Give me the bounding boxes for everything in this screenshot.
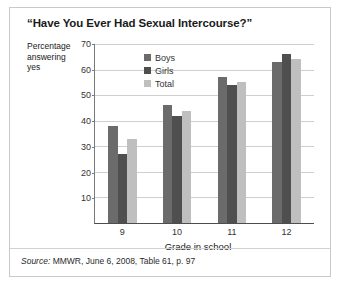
bar-boys-grade-12 (272, 62, 281, 223)
legend-item-boys: Boys (144, 52, 175, 63)
y-axis-tick-mark (92, 121, 95, 122)
chart-title: “Have You Ever Had Sexual Intercourse?” (27, 17, 252, 29)
y-axis-label-line-3: yes (27, 62, 83, 73)
x-axis-tick-label: 9 (95, 227, 150, 237)
source-note: Source: MMWR, June 6, 2008, Table 61, p.… (21, 256, 195, 266)
plot-area: 10203040506070 9101112 (94, 44, 314, 224)
y-axis-tick-label: 10 (81, 193, 91, 203)
y-axis-label: Percentage answering yes (27, 41, 83, 73)
bar-boys-grade-9 (108, 126, 117, 223)
source-text: MMWR, June 6, 2008, Table 61, p. 97 (50, 256, 195, 266)
legend-label: Boys (155, 53, 175, 63)
x-axis-tick-label: 10 (150, 227, 205, 237)
bar-total-grade-11 (237, 82, 246, 223)
y-axis-tick-label: 20 (81, 168, 91, 178)
bar-boys-grade-11 (218, 77, 227, 223)
y-axis-tick-mark (92, 173, 95, 174)
y-axis-tick-mark (92, 198, 95, 199)
y-axis-label-line-1: Percentage (27, 41, 83, 52)
x-axis-tick-label: 11 (205, 227, 260, 237)
bar-total-grade-12 (291, 59, 300, 223)
bar-total-grade-9 (127, 139, 136, 223)
y-axis-tick-label: 40 (81, 116, 91, 126)
legend-item-total: Total (144, 78, 175, 89)
figure-frame: “Have You Ever Had Sexual Intercourse?” … (9, 7, 331, 277)
legend-label: Total (155, 79, 174, 89)
bar-boys-grade-10 (163, 105, 172, 223)
bar-total-grade-10 (182, 111, 191, 224)
plot-wrapper: 10203040506070 9101112 BoysGirlsTotal (82, 44, 314, 224)
y-axis-tick-label: 60 (81, 65, 91, 75)
legend-swatch-boys-icon (144, 54, 151, 61)
y-axis-tick-mark (92, 147, 95, 148)
legend-swatch-girls-icon (144, 67, 151, 74)
bar-girls-grade-12 (282, 54, 291, 223)
bar-girls-grade-11 (227, 85, 236, 223)
source-prefix: Source: (21, 256, 50, 266)
y-axis-tick-mark (92, 44, 95, 45)
legend-item-girls: Girls (144, 65, 175, 76)
x-axis-tick-label: 12 (259, 227, 314, 237)
chart-legend: BoysGirlsTotal (144, 52, 175, 91)
y-axis-label-line-2: answering (27, 52, 83, 63)
bar-girls-grade-9 (118, 154, 127, 223)
y-axis-tick-label: 50 (81, 90, 91, 100)
x-axis-label: Grade in school (82, 241, 314, 252)
bar-girls-grade-10 (172, 116, 181, 223)
bar-group (272, 44, 300, 223)
y-axis-tick-mark (92, 95, 95, 96)
source-divider (10, 248, 330, 249)
legend-swatch-total-icon (144, 80, 151, 87)
bar-group (108, 44, 136, 223)
y-axis-tick-mark (92, 70, 95, 71)
y-axis-tick-label: 70 (81, 39, 91, 49)
y-axis-tick-label: 30 (81, 142, 91, 152)
legend-label: Girls (155, 66, 174, 76)
bar-group (218, 44, 246, 223)
